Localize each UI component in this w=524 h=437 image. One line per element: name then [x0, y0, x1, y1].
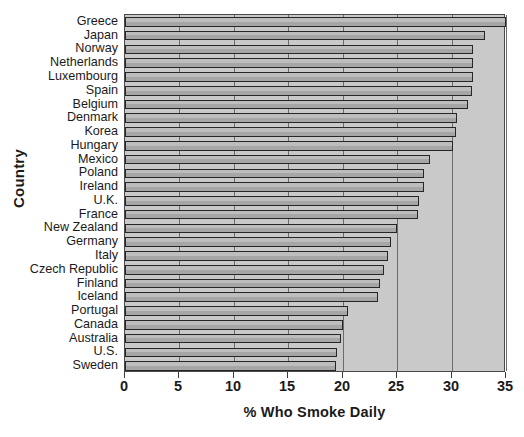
y-axis-tick-label: Italy [20, 249, 118, 261]
bar [125, 292, 378, 302]
gridline [397, 15, 398, 371]
y-axis-tick-label: Canada [20, 318, 118, 330]
x-axis-ticks: 05101520253035 [124, 372, 505, 382]
gridline [506, 15, 507, 371]
y-axis-tick-label: Australia [20, 332, 118, 344]
y-axis-tick-label: Belgium [20, 98, 118, 110]
bar [125, 210, 418, 220]
y-axis-tick-label: Finland [20, 277, 118, 289]
y-axis-tick-label: New Zealand [20, 221, 118, 233]
x-axis-title: % Who Smoke Daily [124, 404, 505, 420]
bar [125, 86, 472, 96]
bar [125, 251, 388, 261]
x-axis-tick-label: 15 [279, 378, 295, 394]
x-axis-tick-label: 0 [120, 378, 128, 394]
bar [125, 361, 336, 371]
gridline [234, 15, 235, 371]
y-axis-tick-label: Greece [20, 15, 118, 27]
y-axis-tick-label: U.S. [20, 345, 118, 357]
bar [125, 31, 485, 41]
y-axis-tick-label: Portugal [20, 304, 118, 316]
bar [125, 113, 457, 123]
y-axis-tick-label: U.K. [20, 194, 118, 206]
y-axis-tick-label: Norway [20, 42, 118, 54]
bar [125, 265, 384, 275]
bar [125, 17, 506, 27]
y-axis-tick-label: Korea [20, 125, 118, 137]
y-axis-tick-label: Germany [20, 235, 118, 247]
x-axis-tick-label: 10 [225, 378, 241, 394]
y-axis-tick-label: Poland [20, 166, 118, 178]
bar [125, 141, 453, 151]
plot-area [124, 14, 505, 372]
y-axis-tick-label: Sweden [20, 359, 118, 371]
bar [125, 334, 341, 344]
x-axis-tick-label: 30 [443, 378, 459, 394]
y-axis-tick-label: Spain [20, 84, 118, 96]
bar [125, 58, 473, 68]
bar [125, 155, 430, 165]
y-axis-tick-labels: GreeceJapanNorwayNetherlandsLuxembourgSp… [20, 14, 118, 372]
bar [125, 72, 473, 82]
x-axis-tick-label: 20 [334, 378, 350, 394]
y-axis-tick-label: Netherlands [20, 56, 118, 68]
bar [125, 320, 343, 330]
y-axis-tick-label: Ireland [20, 180, 118, 192]
bar-chart: Country GreeceJapanNorwayNetherlandsLuxe… [0, 0, 524, 437]
x-axis-tick-label: 25 [388, 378, 404, 394]
bar [125, 100, 468, 110]
bar [125, 127, 456, 137]
bar [125, 237, 391, 247]
bar [125, 196, 419, 206]
x-axis-tick-label: 5 [174, 378, 182, 394]
bar [125, 348, 337, 358]
y-axis-tick-label: Mexico [20, 153, 118, 165]
bar [125, 224, 397, 234]
bar [125, 45, 473, 55]
y-axis-tick-label: Japan [20, 29, 118, 41]
gridline [288, 15, 289, 371]
y-axis-tick-label: Luxembourg [20, 70, 118, 82]
x-axis-tick-label: 35 [497, 378, 513, 394]
y-axis-tick-label: Czech Republic [20, 263, 118, 275]
y-axis-tick-label: Iceland [20, 290, 118, 302]
bar [125, 182, 424, 192]
y-axis-tick-label: Denmark [20, 111, 118, 123]
bar [125, 169, 424, 179]
gridline [343, 15, 344, 371]
y-axis-tick-label: France [20, 208, 118, 220]
bar [125, 279, 380, 289]
gridline [452, 15, 453, 371]
bar [125, 306, 348, 316]
y-axis-tick-label: Hungary [20, 139, 118, 151]
gridline [179, 15, 180, 371]
